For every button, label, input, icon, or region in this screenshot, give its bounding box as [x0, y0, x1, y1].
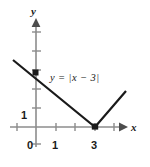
x-tick-label-3: 3	[91, 140, 97, 151]
curve-absolute-value	[13, 60, 126, 127]
x-axis	[10, 123, 128, 132]
x-tick-label-1: 1	[52, 140, 58, 151]
equation-annotation: y = |x − 3|	[50, 73, 99, 84]
y-tick-label-1: 1	[21, 110, 27, 121]
absolute-value-graph-figure: 0 1 3 1 x y y = |x − 3|	[0, 0, 150, 167]
x-axis-label: x	[131, 122, 137, 133]
y-intercept-marker	[33, 70, 39, 76]
x-tick-label-0: 0	[27, 140, 33, 151]
y-axis-label: y	[31, 6, 36, 17]
plot-canvas	[0, 0, 150, 167]
vertex-marker	[92, 124, 98, 130]
